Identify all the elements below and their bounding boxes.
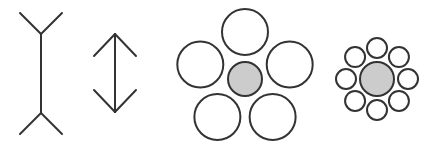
center-circle [228, 62, 262, 96]
surround-circle [367, 100, 387, 120]
ebbinghaus-figures [177, 9, 418, 140]
muller-lyer-figures [20, 13, 136, 134]
illusion-diagram [0, 0, 436, 146]
surround-circle [336, 69, 356, 89]
surround-circle [345, 91, 365, 111]
surround-circle [389, 47, 409, 67]
surround-circle [345, 47, 365, 67]
surround-circle [267, 41, 313, 87]
small-surround [336, 38, 418, 120]
arrowheads-line [94, 34, 136, 112]
surround-circle [194, 94, 240, 140]
fins-out-line [20, 13, 62, 134]
surround-circle [367, 38, 387, 58]
center-circle [360, 62, 394, 96]
surround-circle [250, 94, 296, 140]
surround-circle [222, 9, 268, 55]
surround-circle [177, 41, 223, 87]
surround-circle [389, 91, 409, 111]
surround-circle [398, 69, 418, 89]
large-surround [177, 9, 312, 140]
